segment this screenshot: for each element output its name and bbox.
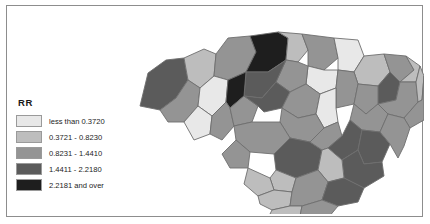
legend-item: 0.3721 - 0.8230	[16, 129, 134, 145]
legend-label-class-4: 1.4411 - 2.2180	[49, 165, 102, 174]
legend-swatch-class-2	[16, 131, 42, 143]
legend-title: RR	[18, 97, 134, 108]
legend-swatch-class-4	[16, 163, 42, 175]
legend-swatch-class-1	[16, 115, 42, 127]
map-svg	[132, 10, 424, 214]
map-legend: RR less than 0.3720 0.3721 - 0.8230 0.82…	[16, 97, 134, 193]
legend-item: 0.8231 - 1.4410	[16, 145, 134, 161]
choropleth-map	[132, 10, 424, 214]
county-polygons	[140, 32, 424, 214]
legend-label-class-2: 0.3721 - 0.8230	[49, 133, 102, 142]
legend-label-class-3: 0.8231 - 1.4410	[49, 149, 102, 158]
legend-item: 2.2181 and over	[16, 177, 134, 193]
legend-item: less than 0.3720	[16, 113, 134, 129]
figure-container: RR less than 0.3720 0.3721 - 0.8230 0.82…	[0, 0, 430, 224]
legend-swatch-class-3	[16, 147, 42, 159]
county-york	[302, 34, 338, 70]
legend-item: 1.4411 - 2.2180	[16, 161, 134, 177]
legend-label-class-1: less than 0.3720	[49, 117, 105, 126]
legend-label-class-5: 2.2181 and over	[49, 181, 104, 190]
legend-swatch-class-5	[16, 179, 42, 191]
